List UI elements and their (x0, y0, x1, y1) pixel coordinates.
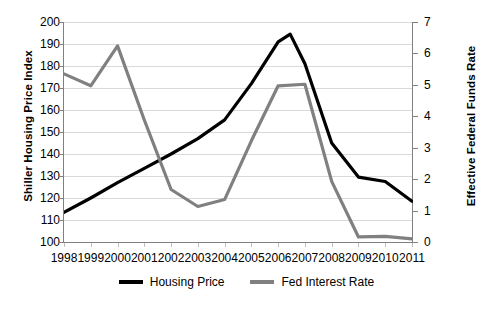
legend-item[interactable]: Housing Price (119, 276, 225, 288)
right-axis-tick-mark (413, 53, 418, 54)
right-axis-tick-label: 2 (424, 173, 444, 185)
left-axis-tick-mark (58, 198, 63, 199)
x-axis-tick-mark (278, 243, 279, 247)
left-axis-tick-label: 120 (26, 192, 60, 204)
legend-color-swatch (119, 280, 143, 284)
x-axis-tick-mark (91, 243, 92, 247)
right-axis-tick-mark (413, 116, 418, 117)
left-axis-tick-mark (58, 22, 63, 23)
left-axis-tick-label: 200 (26, 16, 60, 28)
left-axis-tick-mark (58, 132, 63, 133)
x-axis-tick-mark (171, 243, 172, 247)
x-axis-tick-mark (144, 243, 145, 247)
left-axis-tick-label: 130 (26, 170, 60, 182)
left-axis-tick-label: 140 (26, 148, 60, 160)
x-axis-tick-mark (225, 243, 226, 247)
dual-axis-line-chart: Shiller Housing Price Index Effective Fe… (0, 0, 493, 309)
right-axis-tick-mark (413, 22, 418, 23)
x-axis-tick-mark (251, 243, 252, 247)
right-axis-tick-label: 3 (424, 142, 444, 154)
x-axis-tick-mark (385, 243, 386, 247)
x-axis-tick-label: 2011 (392, 252, 432, 264)
left-axis-tick-label: 110 (26, 214, 60, 226)
legend-color-swatch (250, 280, 274, 284)
left-axis-tick-label: 170 (26, 82, 60, 94)
left-axis-tick-label: 180 (26, 60, 60, 72)
right-axis-tick-label: 5 (424, 79, 444, 91)
left-axis-tick-mark (58, 88, 63, 89)
left-axis-tick-mark (58, 154, 63, 155)
x-axis-tick-mark (358, 243, 359, 247)
series-layer (64, 22, 413, 243)
right-axis-tick-label: 1 (424, 205, 444, 217)
x-axis-tick-mark (64, 243, 65, 247)
x-axis-tick-mark (305, 243, 306, 247)
x-axis-tick-mark (332, 243, 333, 247)
left-axis-tick-mark (58, 44, 63, 45)
series-line-fed-interest-rate (64, 46, 412, 239)
chart-legend: Housing PriceFed Interest Rate (0, 276, 493, 288)
left-axis-tick-mark (58, 66, 63, 67)
legend-item[interactable]: Fed Interest Rate (250, 276, 374, 288)
x-axis-tick-mark (198, 243, 199, 247)
left-axis-tick-mark (58, 220, 63, 221)
series-line-housing-price (64, 34, 412, 212)
left-axis-tick-label: 160 (26, 104, 60, 116)
legend-label: Fed Interest Rate (281, 276, 374, 288)
left-axis-tick-label: 190 (26, 38, 60, 50)
left-axis-tick-mark (58, 176, 63, 177)
right-axis-tick-mark (413, 148, 418, 149)
right-axis-tick-mark (413, 242, 418, 243)
right-axis-tick-label: 6 (424, 47, 444, 59)
right-axis-tick-mark (413, 85, 418, 86)
left-axis-tick-label: 100 (26, 236, 60, 248)
x-axis-tick-mark (118, 243, 119, 247)
legend-label: Housing Price (150, 276, 225, 288)
right-axis-tick-mark (413, 179, 418, 180)
right-axis-title: Effective Federal Funds Rate (465, 26, 477, 226)
left-axis-tick-label: 150 (26, 126, 60, 138)
left-axis-tick-mark (58, 242, 63, 243)
right-axis-tick-label: 7 (424, 16, 444, 28)
right-axis-tick-label: 0 (424, 236, 444, 248)
right-axis-tick-mark (413, 211, 418, 212)
x-axis-tick-mark (412, 243, 413, 247)
left-axis-tick-mark (58, 110, 63, 111)
right-axis-tick-label: 4 (424, 110, 444, 122)
